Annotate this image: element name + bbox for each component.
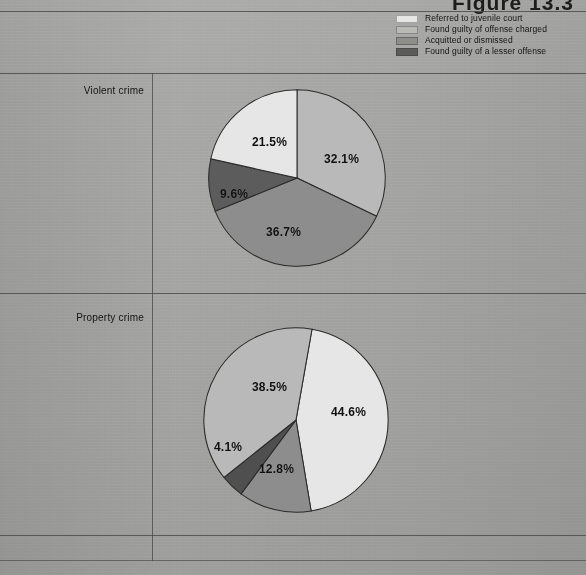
rule-footer [0,535,586,536]
pie-slice-group [209,90,386,267]
pie-value-label: 12.8% [259,462,294,476]
legend-item: Found guilty of offense charged [396,25,547,34]
legend-item: Acquitted or dismissed [396,36,547,45]
legend-item: Referred to juvenile court [396,14,547,23]
pie-value-label: 32.1% [324,152,359,166]
pie-slice [296,329,388,511]
figure-page: Figure 13.3 Referred to juvenile court F… [0,0,586,575]
pie-chart-violent-crime [205,86,389,270]
legend-swatch-icon [396,37,418,45]
pie-slice-group [204,328,388,512]
pie-value-label: 9.6% [220,187,248,201]
rule-header [0,73,586,74]
legend-item-label: Referred to juvenile court [425,14,523,23]
legend-swatch-icon [396,48,418,56]
pie-value-label: 36.7% [266,225,301,239]
legend-swatch-icon [396,15,418,23]
pie-chart-property-crime [200,324,392,516]
row-label-property-crime: Property crime [14,312,144,323]
pie-value-label: 21.5% [252,135,287,149]
rule-top [0,11,586,12]
pie-value-label: 44.6% [331,405,366,419]
row-label-violent-crime: Violent crime [14,85,144,96]
legend-item: Found guilty of a lesser offense [396,47,547,56]
vertical-divider [152,73,153,561]
legend-swatch-icon [396,26,418,34]
pie-value-label: 38.5% [252,380,287,394]
legend-item-label: Found guilty of offense charged [425,25,547,34]
rule-middle [0,293,586,294]
legend-item-label: Found guilty of a lesser offense [425,47,546,56]
pie-value-label: 4.1% [214,440,242,454]
pie-svg-violent [205,86,389,270]
rule-bottom [0,560,586,561]
legend-item-label: Acquitted or dismissed [425,36,513,45]
pie-svg-property [200,324,392,516]
legend: Referred to juvenile court Found guilty … [396,14,547,56]
